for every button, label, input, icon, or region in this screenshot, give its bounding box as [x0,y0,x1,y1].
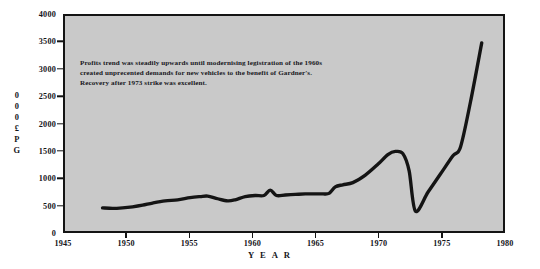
y-axis-title-char: 0 [9,90,25,101]
x-axis-tick-1965: 1965 [296,239,336,248]
x-axis-tickmark-1975 [441,233,442,238]
x-axis-tick-1980: 1980 [485,239,525,248]
x-axis-tick-1960: 1960 [232,239,272,248]
y-axis-tick-1000: 1000 [20,174,56,183]
y-axis-title-char: P [9,134,25,145]
x-axis-tick-1950: 1950 [106,239,146,248]
y-axis-tick-3000: 3000 [20,64,56,73]
x-axis-tick-1975: 1975 [422,239,462,248]
y-axis-tick-2500: 2500 [20,92,56,101]
y-axis-tickmark-3500 [57,41,63,42]
y-axis-tick-3500: 3500 [20,37,56,46]
y-axis-title: 000£PG [9,90,25,156]
x-axis-tick-1955: 1955 [169,239,209,248]
data-line-svg [65,16,503,231]
y-axis-tick-500: 500 [20,201,56,210]
y-axis-tickmark-1500 [57,150,63,151]
annotation-line-1: Profits trend was steadily upwards until… [80,58,380,68]
y-axis-title-char: 0 [9,101,25,112]
y-axis-tick-4000: 4000 [20,10,56,19]
y-axis-title-char: £ [9,123,25,134]
x-axis-tickmark-1960 [252,233,253,238]
annotation-line-3: Recovery after 1973 strike was excellent… [80,78,380,88]
x-axis-title: Y E A R [0,250,540,260]
plot-area [63,14,505,233]
x-axis-tickmark-1950 [125,233,126,238]
y-axis-tick-0: 0 [20,229,56,238]
y-axis-title-char: G [9,145,25,156]
y-axis-tickmark-1000 [57,178,63,179]
annotation-line-2: created unprecented demands for new vehi… [80,68,380,78]
x-axis-tick-1945: 1945 [43,239,83,248]
y-axis-tick-2000: 2000 [20,119,56,128]
x-axis-tickmark-1965 [315,233,316,238]
chart-annotation: Profits trend was steadily upwards until… [80,58,380,89]
y-axis-tickmark-3000 [57,68,63,69]
chart-container: 05001000150020002500300035004000 000£PG … [0,0,540,269]
x-axis-tickmark-1970 [378,233,379,238]
y-axis-tickmark-500 [57,205,63,206]
y-axis-tickmark-2500 [57,95,63,96]
y-axis-title-char: 0 [9,112,25,123]
y-axis-tick-1500: 1500 [20,146,56,155]
y-axis-tickmark-2000 [57,123,63,124]
x-axis-tickmark-1955 [189,233,190,238]
x-axis-tick-1970: 1970 [359,239,399,248]
